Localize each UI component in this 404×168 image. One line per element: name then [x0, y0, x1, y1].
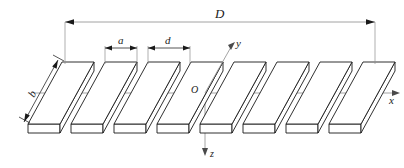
dimension-a-label: a: [118, 34, 124, 46]
diagram-canvas: x z: [0, 0, 404, 168]
dimension-d: d: [148, 34, 190, 64]
z-axis-arrowhead: [202, 148, 208, 156]
slat-front-face: [329, 124, 361, 133]
dimension-D: D: [65, 6, 375, 64]
slat-front-face: [200, 124, 232, 133]
dimension-d-arrow-left: [148, 46, 155, 51]
origin-label: O: [191, 84, 198, 95]
slat-front-face: [157, 124, 189, 133]
dimension-a: a: [105, 34, 137, 64]
dimension-a-arrow-left: [105, 46, 112, 51]
dimension-a-arrow-right: [130, 46, 137, 51]
y-axis-label: y: [235, 37, 241, 49]
dimension-d-label: d: [165, 34, 171, 46]
dimension-D-label: D: [214, 6, 225, 21]
slat-front-face: [114, 124, 146, 133]
slat-array: [28, 62, 395, 133]
dimension-b-tick-bottom: [19, 117, 30, 123]
slat-front-face: [286, 124, 318, 133]
z-axis-label: z: [209, 148, 214, 159]
dimension-D-arrow-left: [65, 19, 74, 25]
dimension-D-arrow-right: [366, 19, 375, 25]
dimension-b-label: b: [25, 88, 38, 99]
slat-array-figure: x z: [0, 0, 404, 168]
x-axis-label: x: [388, 94, 394, 106]
dimension-d-arrow-right: [183, 46, 190, 51]
dimension-b-arrow-top: [52, 60, 58, 69]
y-axis-arrowhead: [228, 42, 235, 50]
slat-front-face: [243, 124, 275, 133]
dimension-b-tick-top: [53, 55, 64, 61]
dimension-b-arrow-bottom: [24, 113, 30, 122]
slat-front-face: [28, 124, 60, 133]
slat-front-face: [71, 124, 103, 133]
